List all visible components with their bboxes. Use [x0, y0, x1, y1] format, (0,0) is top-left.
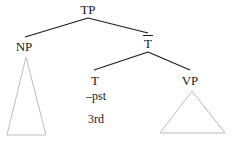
- node-tp: TP: [80, 3, 95, 16]
- branch-tbar-to-vp: [148, 52, 190, 70]
- node-np: NP: [16, 40, 33, 53]
- node-t: T: [91, 74, 99, 87]
- branch-tbar-to-t: [94, 52, 148, 70]
- node-tp-label: TP: [80, 2, 95, 17]
- branch-tp-to-np: [25, 18, 88, 37]
- constituent-triangles: [7, 57, 225, 135]
- branch-lines: [25, 18, 190, 70]
- feature-person: 3rd: [88, 113, 104, 125]
- np-triangle: [7, 57, 46, 135]
- feature-person-label: 3rd: [88, 112, 104, 126]
- vp-triangle: [160, 91, 225, 133]
- tree-canvas: [0, 0, 232, 142]
- node-tbar-label: T: [144, 36, 152, 50]
- node-t-label: T: [91, 73, 99, 88]
- feature-tense: –pst: [86, 90, 106, 102]
- branch-tp-to-tbar: [88, 18, 148, 33]
- syntax-tree-diagram: TP NP T T VP –pst 3rd: [0, 0, 232, 142]
- node-vp-label: VP: [182, 73, 199, 88]
- feature-tense-label: –pst: [86, 89, 106, 103]
- node-vp: VP: [182, 74, 199, 87]
- node-tbar: T: [144, 36, 152, 50]
- node-np-label: NP: [16, 39, 33, 54]
